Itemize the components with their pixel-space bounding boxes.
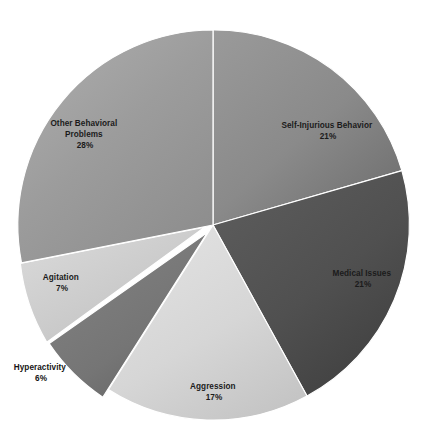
- label-aggression-percent: 17%: [206, 393, 223, 402]
- label-aggression-name: Aggression: [190, 382, 236, 391]
- label-other-behavioral-problems-name-1: Other Behavioral: [50, 119, 117, 128]
- label-medical-issues-name: Medical Issues: [333, 269, 392, 278]
- pie-slice-other-behavioral-problems[interactable]: [18, 30, 213, 263]
- pie-slices: [18, 30, 410, 420]
- label-hyperactivity: Hyperactivity 6%: [14, 363, 68, 383]
- label-hyperactivity-name: Hyperactivity: [14, 363, 66, 372]
- pie-chart-canvas: Self-Injurious Behavior 21% Medical Issu…: [0, 0, 427, 436]
- label-agitation-percent: 7%: [56, 284, 69, 293]
- label-medical-issues-percent: 21%: [355, 280, 372, 289]
- label-other-behavioral-problems-name-2: Problems: [65, 130, 103, 139]
- label-other-behavioral-problems-percent: 28%: [77, 141, 94, 150]
- label-hyperactivity-percent: 6%: [35, 374, 48, 383]
- pie-chart-figure: Self-Injurious Behavior 21% Medical Issu…: [0, 0, 427, 436]
- label-agitation-name: Agitation: [43, 273, 79, 282]
- label-self-injurious-behavior-percent: 21%: [320, 132, 337, 141]
- label-self-injurious-behavior-name: Self-Injurious Behavior: [281, 121, 373, 130]
